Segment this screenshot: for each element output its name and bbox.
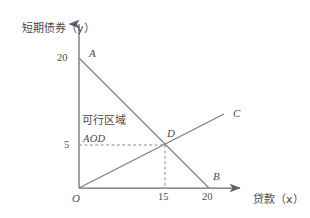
y-axis-title: 短期债券（y） bbox=[22, 23, 95, 34]
point-label-c: C bbox=[233, 108, 240, 119]
annotation-feasible-region: 可行区域 bbox=[82, 115, 126, 126]
x-axis-title: 贷款（x） bbox=[253, 194, 304, 205]
x-tick-label-20: 20 bbox=[202, 192, 213, 203]
point-label-b: B bbox=[213, 171, 220, 182]
y-tick-label-5: 5 bbox=[64, 140, 69, 151]
economics-feasible-region-diagram: 短期债券（y） 贷款（x） 20 5 15 20 A B C D O 可行区域 … bbox=[0, 0, 310, 218]
origin-label: O bbox=[72, 193, 80, 204]
annotation-region-aod: AOD bbox=[83, 134, 105, 145]
y-tick-label-20: 20 bbox=[57, 53, 68, 64]
point-label-a: A bbox=[89, 48, 96, 59]
point-label-d: D bbox=[167, 128, 175, 139]
x-tick-label-15: 15 bbox=[158, 192, 169, 203]
